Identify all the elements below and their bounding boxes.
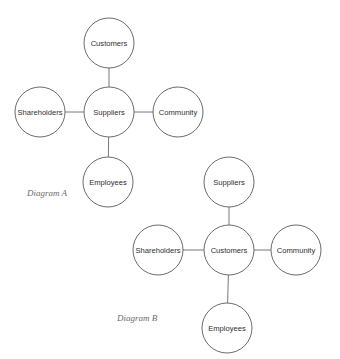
node-label: Suppliers [93,108,125,117]
node-label: Employees [89,178,127,187]
node-community: Community [271,225,321,275]
node-suppliers: Suppliers [204,157,254,207]
node-customers: Customers [84,18,134,68]
node-label: Employees [208,324,246,333]
diagram-b: CustomersSuppliersShareholdersCommunityE… [116,157,321,353]
node-shareholders: Shareholders [15,87,65,137]
connector-customers-to-employees [228,275,229,303]
diagram-a: SuppliersCustomersShareholdersCommunityE… [15,18,203,207]
node-community: Community [153,87,203,137]
node-label: Suppliers [213,178,245,187]
diagram-caption: Diagram B [116,313,158,323]
node-label: Customers [91,39,128,48]
node-label: Community [159,108,198,117]
node-label: Customers [211,246,248,255]
node-employees: Employees [202,303,252,353]
stakeholder-diagrams-canvas: SuppliersCustomersShareholdersCommunityE… [0,0,340,359]
node-shareholders: Shareholders [133,225,183,275]
node-employees: Employees [83,157,133,207]
node-label: Shareholders [135,246,180,255]
node-customers: Customers [204,225,254,275]
diagram-caption: Diagram A [26,188,68,198]
node-label: Community [277,246,316,255]
node-suppliers: Suppliers [84,87,134,137]
node-label: Shareholders [17,108,62,117]
